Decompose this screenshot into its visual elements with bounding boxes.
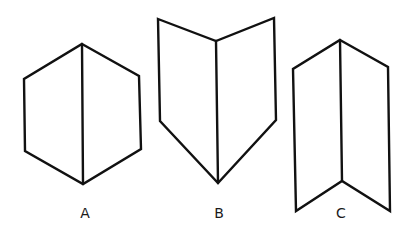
figure-b-label: B — [214, 205, 224, 221]
figure-a-label: A — [80, 205, 90, 221]
figure-a: A — [24, 44, 141, 221]
figure-c-center-line — [340, 40, 342, 181]
figure-a-center-line — [82, 44, 83, 184]
figure-b-center-line — [216, 41, 218, 183]
figure-c-label: C — [336, 205, 346, 221]
figure-c: C — [293, 40, 390, 221]
figure-b: B — [158, 18, 276, 221]
figure-diagram: A B C — [0, 0, 411, 237]
